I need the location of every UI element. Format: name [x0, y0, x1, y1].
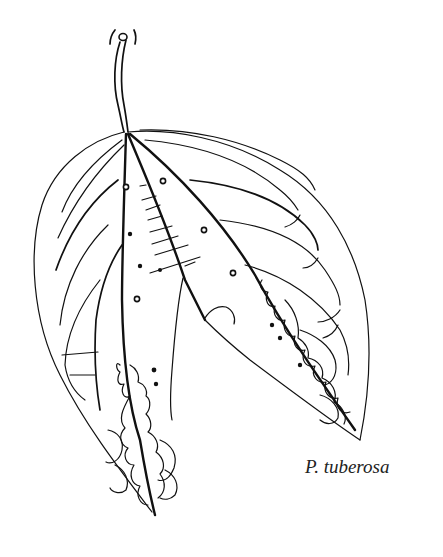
central-midrib	[128, 134, 235, 420]
species-caption: P. tuberosa	[305, 456, 389, 478]
stem	[110, 30, 136, 132]
damage-left	[106, 364, 177, 505]
leaf-spots	[123, 178, 302, 386]
left-midrib	[122, 134, 155, 515]
left-veins	[56, 140, 124, 410]
hash-marks	[140, 185, 200, 273]
